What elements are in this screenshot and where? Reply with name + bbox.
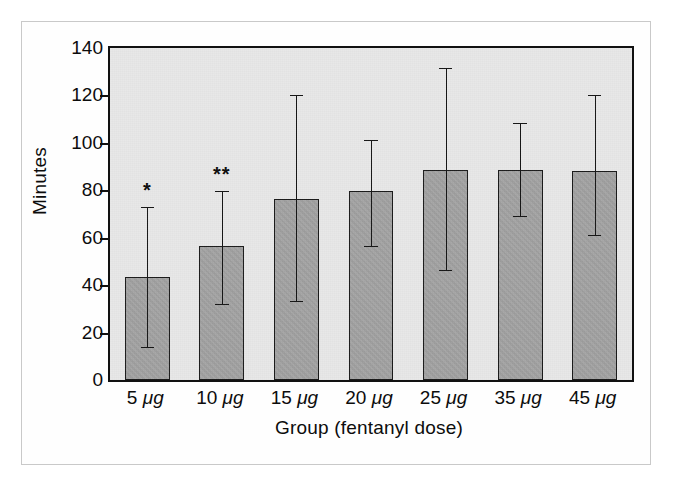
error-bar-line <box>595 95 596 235</box>
y-tick-label: 20 <box>82 322 103 344</box>
y-tick-label: 40 <box>82 274 103 296</box>
error-bar-cap-lower <box>215 304 228 305</box>
error-bar-cap-upper <box>364 140 377 141</box>
x-tick-label: 35 μg <box>494 387 541 409</box>
figure: Minutes Group (fentanyl dose) 0204060801… <box>0 0 673 487</box>
error-bar-line <box>371 140 372 246</box>
x-axis-title: Group (fentanyl dose) <box>108 417 630 439</box>
error-bar-cap-upper <box>513 123 526 124</box>
error-bar-line <box>296 95 297 300</box>
error-bar-cap-lower <box>364 246 377 247</box>
error-bar-line <box>147 207 148 347</box>
y-tick-label: 0 <box>92 369 103 391</box>
y-tick-label: 140 <box>71 37 103 59</box>
x-tick-label: 20 μg <box>345 387 392 409</box>
y-tick-label: 60 <box>82 227 103 249</box>
error-bar-cap-lower <box>513 216 526 217</box>
error-bar-cap-upper <box>141 207 154 208</box>
error-bar-cap-lower <box>141 347 154 348</box>
error-bar-cap-upper <box>290 95 303 96</box>
x-tick-label: 15 μg <box>271 387 318 409</box>
x-tick-label: 5 μg <box>127 387 164 409</box>
error-bar-cap-upper <box>215 191 228 192</box>
y-axis-title: Minutes <box>29 121 51 241</box>
y-tick-label: 120 <box>71 84 103 106</box>
error-bar-cap-lower <box>290 301 303 302</box>
error-bar-cap-upper <box>588 95 601 96</box>
significance-marker: ** <box>213 164 231 184</box>
x-tick-label: 25 μg <box>420 387 467 409</box>
significance-marker: * <box>143 180 152 200</box>
y-tick-label: 80 <box>82 179 103 201</box>
error-bar-line <box>222 191 223 304</box>
x-tick-label: 45 μg <box>569 387 616 409</box>
error-bar-cap-lower <box>439 270 452 271</box>
error-bar-line <box>446 68 447 270</box>
error-bar-cap-upper <box>439 68 452 69</box>
error-bar-cap-lower <box>588 235 601 236</box>
x-tick-label: 10 μg <box>196 387 243 409</box>
y-tick-label: 100 <box>71 132 103 154</box>
error-bar-line <box>520 123 521 217</box>
plot-area: 020406080100120140 *** <box>108 46 634 382</box>
